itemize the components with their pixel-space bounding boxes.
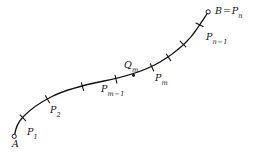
label-point-a: A <box>12 139 19 149</box>
label-point-pn-minus-1: Pn−1 <box>206 32 227 44</box>
curve-path <box>15 13 208 136</box>
endpoint-marker-b <box>206 10 210 14</box>
label-point-pm: Pm <box>155 73 168 85</box>
label-point-pm-minus-1: Pm−1 <box>101 84 124 96</box>
curve-group <box>15 13 208 136</box>
label-point-p2: P2 <box>50 105 61 117</box>
label-point-b: B=Pn <box>215 6 243 18</box>
partition-tick-pm-1 <box>115 75 117 83</box>
curve-diagram-svg <box>0 0 255 153</box>
sample-point-marker-qm <box>132 74 135 77</box>
sample-point-group <box>132 74 135 77</box>
label-point-p1: P1 <box>27 127 38 139</box>
partition-tick-group <box>20 23 203 121</box>
figure-container: A P1 P2 Pm−1 Qm Pm Pn−1 B=Pn <box>0 0 255 153</box>
label-point-qm: Qm <box>124 60 138 72</box>
endpoint-marker-group <box>12 10 210 139</box>
